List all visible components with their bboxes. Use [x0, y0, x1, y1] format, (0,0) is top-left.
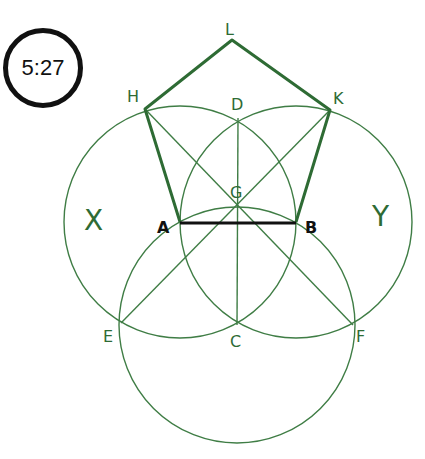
label-f: F: [356, 327, 365, 346]
pentagon-construction-diagram: L H K D G A B E C F X Y: [0, 0, 425, 459]
label-circle-y: Y: [371, 200, 390, 233]
label-h: H: [127, 87, 139, 106]
label-d: D: [231, 95, 243, 114]
label-g: G: [230, 183, 242, 202]
label-b: B: [305, 218, 317, 237]
label-circle-x: X: [84, 204, 103, 237]
label-a: A: [157, 218, 170, 237]
label-k: K: [333, 89, 344, 108]
label-e: E: [103, 327, 113, 346]
label-l: L: [225, 20, 234, 39]
label-c: C: [230, 332, 241, 351]
